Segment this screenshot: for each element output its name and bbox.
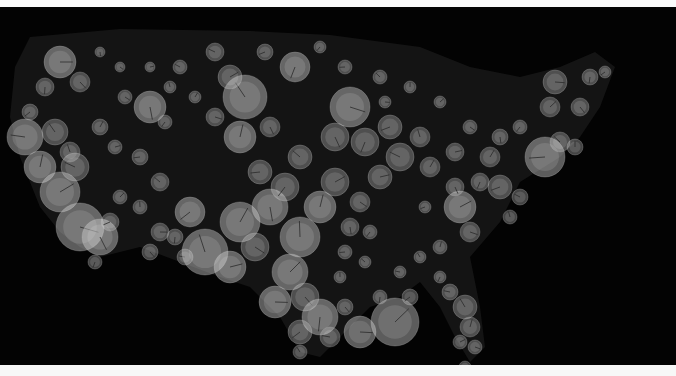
data-bubble: [337, 299, 353, 315]
data-bubble: [257, 44, 273, 60]
data-bubble: [453, 335, 467, 349]
data-bubble: [173, 60, 187, 74]
data-bubble: [142, 244, 158, 260]
data-bubble: [446, 178, 464, 196]
data-bubble: [394, 266, 406, 278]
data-bubble: [582, 69, 598, 85]
top-margin-bar: [0, 0, 676, 7]
data-bubble: [189, 91, 201, 103]
data-bubble: [351, 128, 379, 156]
data-bubble: [101, 213, 119, 231]
data-bubble: [363, 225, 377, 239]
bubble-tick: [360, 332, 373, 333]
data-bubble: [133, 200, 147, 214]
bubble-tick: [45, 87, 46, 94]
data-bubble: [378, 115, 402, 139]
data-bubble: [488, 175, 512, 199]
data-bubble: [434, 96, 446, 108]
data-bubble: [259, 286, 291, 318]
data-bubble: [321, 123, 349, 151]
data-bubble: [480, 147, 500, 167]
data-bubble: [338, 60, 352, 74]
data-bubble: [350, 192, 370, 212]
data-bubble: [314, 41, 326, 53]
bubble-map: [0, 7, 676, 365]
data-bubble: [463, 120, 477, 134]
data-bubble: [368, 165, 392, 189]
bubble-layer: [0, 7, 676, 365]
data-bubble: [599, 66, 611, 78]
data-bubble: [113, 190, 127, 204]
data-bubble: [218, 65, 242, 89]
data-bubble: [338, 245, 352, 259]
data-bubble: [442, 284, 458, 300]
data-bubble: [341, 218, 359, 236]
data-bubble: [288, 145, 312, 169]
data-bubble: [95, 47, 105, 57]
data-bubble: [248, 160, 272, 184]
data-bubble: [373, 290, 387, 304]
data-bubble: [503, 210, 517, 224]
data-bubble: [88, 255, 102, 269]
data-bubble: [206, 43, 224, 61]
data-bubble: [492, 129, 508, 145]
data-bubble: [330, 87, 370, 127]
data-bubble: [280, 217, 320, 257]
bubble-tick: [555, 82, 565, 83]
data-bubble: [22, 104, 38, 120]
data-bubble: [402, 289, 418, 305]
data-bubble: [214, 251, 246, 283]
bubble-tick: [339, 252, 345, 253]
bubble-tick: [379, 297, 380, 303]
data-bubble: [132, 149, 148, 165]
data-bubble: [280, 52, 310, 82]
data-bubble: [92, 119, 108, 135]
data-bubble: [420, 157, 440, 177]
data-bubble: [460, 317, 480, 337]
data-bubble: [293, 345, 307, 359]
data-bubble: [434, 271, 446, 283]
data-bubble: [241, 233, 269, 261]
data-bubble: [108, 140, 122, 154]
data-bubble: [167, 229, 183, 245]
data-bubble: [334, 271, 346, 283]
data-bubble: [7, 119, 43, 155]
data-bubble: [70, 72, 90, 92]
data-bubble: [151, 223, 169, 241]
data-bubble: [543, 70, 567, 94]
data-bubble: [404, 81, 416, 93]
bubble-tick: [100, 52, 101, 56]
data-bubble: [471, 173, 489, 191]
data-bubble: [151, 173, 169, 191]
data-bubble: [320, 327, 340, 347]
data-bubble: [460, 222, 480, 242]
data-bubble: [414, 251, 426, 263]
data-bubble: [433, 240, 447, 254]
bubble-tick: [174, 237, 175, 243]
data-bubble: [42, 119, 68, 145]
data-bubble: [513, 120, 527, 134]
data-bubble: [444, 191, 476, 223]
bubble-tick: [299, 221, 300, 237]
data-bubble: [567, 139, 583, 155]
data-bubble: [453, 295, 477, 319]
data-bubble: [386, 143, 414, 171]
data-bubble: [36, 78, 54, 96]
data-bubble: [164, 81, 176, 93]
bottom-margin-bar: [0, 365, 676, 376]
data-bubble: [260, 117, 280, 137]
data-bubble: [60, 142, 80, 162]
data-bubble: [145, 62, 155, 72]
data-bubble: [321, 168, 349, 196]
data-bubble: [446, 143, 464, 161]
data-bubble: [44, 46, 76, 78]
data-bubble: [379, 96, 391, 108]
data-bubble: [158, 115, 172, 129]
data-bubble: [540, 97, 560, 117]
data-bubble: [410, 127, 430, 147]
data-bubble: [468, 340, 482, 354]
data-bubble: [288, 320, 312, 344]
data-bubble: [344, 316, 376, 348]
data-bubble: [373, 70, 387, 84]
data-bubble: [419, 201, 431, 213]
